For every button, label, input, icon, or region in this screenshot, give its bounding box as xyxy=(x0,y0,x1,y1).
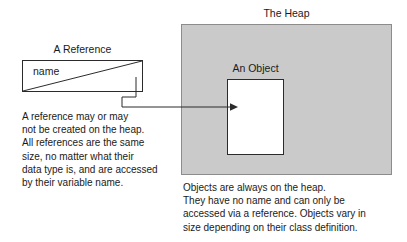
reference-note-line: data type is, and are accessed xyxy=(22,163,202,176)
object-box xyxy=(227,79,284,155)
heap-note-line: Objects are always on the heap. xyxy=(183,181,403,194)
heap-title: The Heap xyxy=(181,7,392,19)
reference-note-line: All references are the same xyxy=(22,136,202,149)
reference-note: A reference may or may not be created on… xyxy=(22,110,202,189)
heap-note-line: size depending on their class definition… xyxy=(183,221,403,234)
reference-title: A Reference xyxy=(22,43,143,55)
reference-note-line: size, no matter what their xyxy=(22,150,202,163)
reference-note-line: A reference may or may xyxy=(22,110,202,123)
heap-note: Objects are always on the heap. They hav… xyxy=(183,181,403,234)
heap-region xyxy=(181,24,392,175)
object-title: An Object xyxy=(227,62,284,74)
reference-note-line: by their variable name. xyxy=(22,176,202,189)
reference-variable-label: name xyxy=(33,65,59,77)
reference-note-line: not be created on the heap. xyxy=(22,123,202,136)
heap-note-line: They have no name and can only be xyxy=(183,194,403,207)
heap-note-line: accessed via a reference. Objects vary i… xyxy=(183,207,403,220)
diagram-canvas: The Heap An Object A Reference name A re… xyxy=(0,0,407,242)
